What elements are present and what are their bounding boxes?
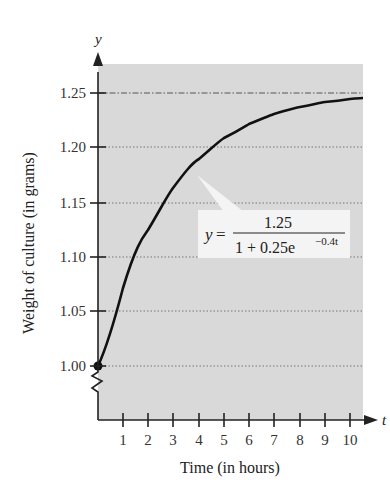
formula-lhs-var: y: [203, 225, 213, 244]
x-tick-label: 3: [169, 432, 177, 448]
y-axis-title: Weight of culture (in grams): [20, 152, 38, 334]
x-axis-variable: t: [382, 412, 387, 428]
y-tick-label: 1.15: [60, 195, 86, 211]
x-axis-arrow-icon: [364, 415, 378, 425]
x-tick-label: 9: [321, 432, 329, 448]
x-tick-label: 1: [119, 432, 127, 448]
y-tick-label: 1.20: [60, 139, 86, 155]
y-tick-label: 1.10: [60, 249, 86, 265]
x-tick-label: 5: [220, 432, 228, 448]
x-tick-label: 7: [270, 432, 278, 448]
y-axis-arrow-icon: [93, 52, 103, 66]
x-tick-label: 2: [144, 432, 152, 448]
formula-numerator: 1.25: [264, 214, 292, 231]
x-tick-label: 4: [195, 432, 203, 448]
formula-exponent: −0.4t: [315, 235, 338, 247]
y-tick-label: 1.25: [60, 85, 86, 101]
y-tick-label: 1.05: [60, 303, 86, 319]
x-tick-label: 6: [245, 432, 253, 448]
x-tick-label: 10: [343, 432, 358, 448]
formula-equals: =: [216, 225, 226, 244]
x-tick-label: 8: [296, 432, 304, 448]
formula-denominator: 1 + 0.25e: [235, 239, 295, 256]
x-axis-title: Time (in hours): [180, 459, 280, 477]
y-axis-variable: y: [93, 31, 102, 47]
y-tick-labels: 1.25 1.20 1.15 1.10 1.05 1.00: [60, 85, 86, 374]
logistic-growth-chart: 1.25 1.20 1.15 1.10 1.05 1.00 1 2 3 4 5 …: [0, 0, 390, 499]
x-tick-labels: 1 2 3 4 5 6 7 8 9 10: [119, 432, 357, 448]
y-tick-label: 1.00: [60, 358, 86, 374]
